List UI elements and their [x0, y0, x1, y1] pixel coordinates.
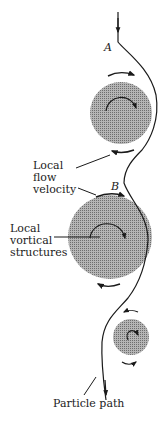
particle-path-label: Particle path: [53, 398, 124, 410]
vortex-particle-path-diagram: A B Local flow velocity Local vortical s…: [0, 0, 167, 425]
diagram-graphics: [0, 0, 167, 425]
vortex-bottom: [113, 319, 149, 355]
point-b-label: B: [111, 181, 119, 193]
point-a-label: A: [104, 42, 112, 54]
flow-velocity-label: Local flow velocity: [33, 160, 76, 196]
vortical-structures-label: Local vortical structures: [10, 223, 68, 259]
vortex-top: [90, 82, 152, 144]
